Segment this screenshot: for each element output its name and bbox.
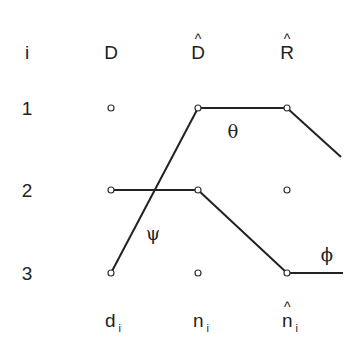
node-dhat-1 — [195, 105, 201, 111]
nhat-base: n — [282, 311, 293, 330]
footer-label-d: di — [105, 311, 121, 334]
n-sub: i — [207, 322, 209, 334]
footer-label-n: ni — [193, 311, 209, 334]
d-sub: i — [119, 322, 121, 334]
nhat-sub: i — [296, 322, 298, 334]
column-header-d: D — [104, 43, 118, 62]
psi-label: ψ — [146, 223, 160, 244]
node-d-3 — [108, 270, 114, 276]
alignment-diagram — [0, 0, 359, 351]
column-header-rhat: R — [280, 43, 294, 62]
phi-label: ϕ — [321, 244, 333, 265]
rhat-label: R — [280, 43, 294, 62]
row-label-1: 1 — [22, 99, 33, 118]
edge-theta-2 — [287, 108, 341, 157]
d-base: d — [105, 310, 116, 331]
edge-phi-2 — [198, 190, 287, 273]
node-rhat-1 — [284, 105, 290, 111]
node-d-2 — [108, 187, 114, 193]
node-dhat-2 — [195, 187, 201, 193]
node-rhat-2 — [284, 187, 290, 193]
node-dhat-3 — [195, 270, 201, 276]
index-header: i — [25, 43, 29, 62]
column-header-dhat: D — [191, 43, 205, 62]
row-label-2: 2 — [22, 181, 33, 200]
row-label-3: 3 — [22, 264, 33, 283]
theta-label: θ — [228, 121, 239, 142]
n-base: n — [193, 310, 204, 331]
footer-label-nhat: ni — [282, 311, 298, 334]
node-rhat-3 — [284, 270, 290, 276]
node-d-1 — [108, 105, 114, 111]
dhat-label: D — [191, 43, 205, 62]
